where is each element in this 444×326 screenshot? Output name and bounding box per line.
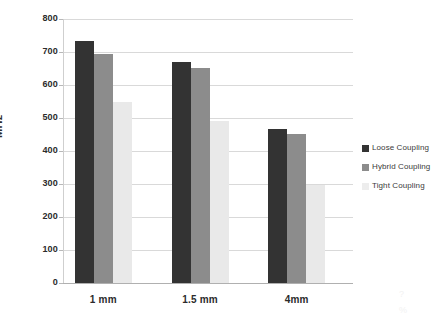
legend-swatch-icon: [362, 164, 369, 171]
bar: [287, 134, 306, 283]
y-axis-tick-label: 800: [18, 13, 58, 23]
scan-artifact-1: ?: [399, 289, 404, 299]
y-axis-tick-label: 700: [18, 46, 58, 56]
x-axis-tick-label: 4mm: [254, 294, 339, 305]
y-axis-tick-label: 100: [18, 244, 58, 254]
legend-label: Loose Coupling: [372, 144, 429, 152]
x-axis-line: [63, 283, 353, 284]
x-axis-tick-label: 1 mm: [61, 294, 146, 305]
bar: [268, 129, 287, 283]
chart-legend: Loose CouplingHybrid CouplingTight Coupl…: [362, 144, 430, 201]
bar-chart: MHz 0100200300400500600700800 1 mm1.5 mm…: [0, 0, 444, 326]
bar: [172, 62, 191, 283]
legend-swatch-icon: [362, 145, 369, 152]
legend-swatch-icon: [362, 183, 369, 190]
bar-group: [268, 19, 325, 283]
y-axis-tick-label: 400: [18, 145, 58, 155]
legend-item: Tight Coupling: [362, 182, 430, 190]
bar: [75, 41, 94, 283]
bar-group: [172, 19, 229, 283]
legend-item: Hybrid Coupling: [362, 163, 430, 171]
y-axis-tick-label: 200: [18, 211, 58, 221]
y-axis-tick-label: 300: [18, 178, 58, 188]
y-axis-tick-label: 600: [18, 79, 58, 89]
legend-item: Loose Coupling: [362, 144, 430, 152]
bar: [94, 54, 113, 283]
bar: [306, 185, 325, 283]
legend-label: Hybrid Coupling: [372, 163, 430, 171]
bar-group: [75, 19, 132, 283]
y-axis-line: [63, 19, 64, 284]
legend-label: Tight Coupling: [372, 182, 425, 190]
x-axis-tick-label: 1.5 mm: [158, 294, 243, 305]
y-axis-tick-label: 500: [18, 112, 58, 122]
bar: [113, 102, 132, 284]
bar: [210, 121, 229, 283]
plot-area: [63, 19, 353, 283]
scan-artifact-2: %: [399, 305, 407, 315]
bar: [191, 68, 210, 283]
y-axis-tick-label: 0: [18, 277, 58, 287]
y-axis-title: MHz: [0, 114, 4, 138]
